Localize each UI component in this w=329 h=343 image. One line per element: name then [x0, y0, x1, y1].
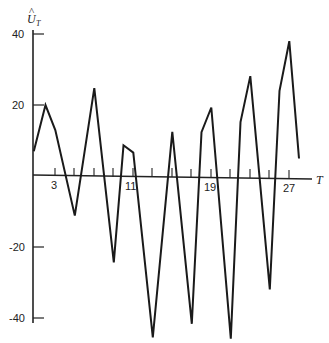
x-tick-label-11: 11	[125, 180, 136, 192]
x-tick-label-27: 27	[283, 182, 295, 194]
y-tick-label-neg40: -40	[9, 312, 25, 324]
series-line	[34, 41, 299, 338]
y-tick-label-40: 40	[12, 28, 24, 40]
x-axis-title: T	[316, 173, 324, 187]
y-ticks	[33, 34, 44, 318]
y-axis-title-sub: T	[36, 19, 41, 28]
x-tick-label-19: 19	[204, 181, 216, 193]
line-chart: 40 20 -20 -40 3 11 19 27 T ^ U T	[0, 0, 329, 343]
y-tick-label-neg20: -20	[9, 241, 25, 253]
x-tick-label-3: 3	[51, 179, 57, 191]
y-tick-label-20: 20	[12, 99, 24, 111]
